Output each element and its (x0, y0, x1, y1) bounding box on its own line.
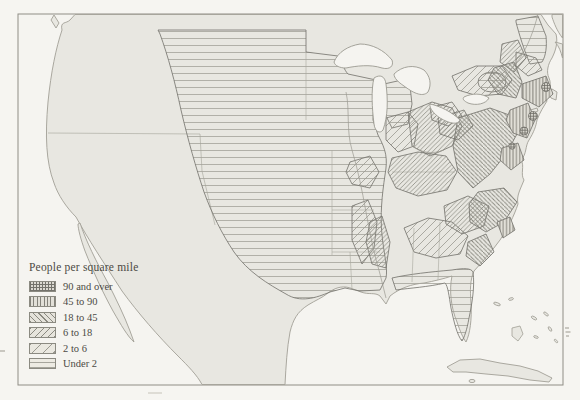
legend-item-under-2: Under 2 (29, 358, 138, 370)
legend-label: 6 to 18 (63, 327, 92, 338)
legend-swatch-horizontal-lines (29, 358, 56, 369)
legend-swatch-diagonal-backslash (29, 312, 56, 323)
legend-swatch-vertical-lines (29, 296, 56, 307)
legend-title: People per square mile (29, 261, 138, 273)
legend-swatch-diagonal-slash-sparse (29, 343, 56, 354)
legend-label: 90 and over (63, 281, 113, 292)
legend-item-45-to-90: 45 to 90 (29, 296, 138, 308)
legend-item-18-to-45: 18 to 45 (29, 311, 138, 323)
scanned-map-page: People per square mile 90 and over 45 to… (0, 0, 580, 400)
legend-label: 2 to 6 (63, 343, 87, 354)
legend-swatch-diagonal-slash-dense (29, 327, 56, 338)
legend-label: Under 2 (63, 358, 97, 369)
legend-item-6-to-18: 6 to 18 (29, 327, 138, 339)
legend-label: 18 to 45 (63, 312, 97, 323)
legend-item-90-and-over: 90 and over (29, 280, 138, 292)
isle-of-pines (469, 379, 475, 382)
lake-michigan (372, 76, 387, 132)
legend-item-2-to-6: 2 to 6 (29, 342, 138, 354)
legend-swatch-crosshatch (29, 281, 56, 292)
map-legend: People per square mile 90 and over 45 to… (29, 261, 138, 373)
legend-label: 45 to 90 (63, 296, 97, 307)
